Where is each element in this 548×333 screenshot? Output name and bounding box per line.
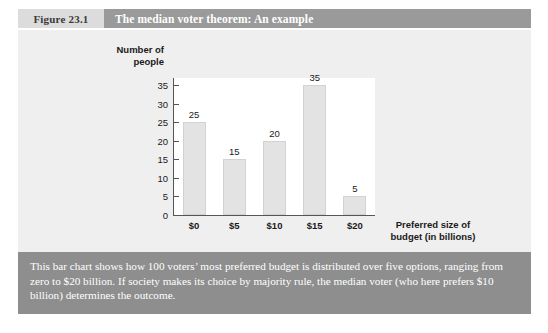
y-axis-title-line-1: Number of [98,44,164,56]
x-axis-tick-label: $5 [229,220,240,231]
plot-wrapper: Number of people 05101520253035 25$015$5… [18,30,531,252]
bar-value-label: 5 [352,183,357,194]
x-axis-tick-label: $15 [307,220,323,231]
bar [303,85,326,215]
y-axis-tick-label: 5 [144,191,168,202]
y-axis-line [173,78,174,215]
bar-value-label: 25 [189,109,200,120]
y-axis-tick-mark [174,85,179,86]
x-axis-tick-label: $10 [267,220,283,231]
figure-container: Figure 23.1 The median voter theorem: An… [0,0,548,333]
bar-value-label: 35 [309,72,320,83]
y-axis-tick-label: 20 [144,135,168,146]
y-axis-tick-label: 25 [144,117,168,128]
y-axis-tick-mark [174,104,179,105]
y-axis-tick-mark [174,178,179,179]
y-axis-tick-label: 15 [144,154,168,165]
figure-caption-band: This bar chart shows how 100 voters’ mos… [18,252,531,314]
y-axis-title-line-2: people [98,56,164,68]
bar-value-label: 20 [269,128,280,139]
bar [223,159,246,215]
figure-header: Figure 23.1 The median voter theorem: An… [18,9,531,28]
x-axis-tick-label: $20 [347,220,363,231]
y-axis-tick-mark [174,122,179,123]
bar [343,196,366,215]
figure-number-label: Figure 23.1 [18,9,104,28]
x-axis-title: Preferred size of budget (in billions) [373,219,493,242]
y-axis-tick-mark [174,141,179,142]
x-axis-line [173,215,375,216]
y-axis-title: Number of people [98,44,164,67]
x-axis-title-line-1: Preferred size of [373,219,493,231]
figure-caption-text: This bar chart shows how 100 voters’ mos… [30,259,519,303]
y-axis-tick-label: 35 [144,80,168,91]
y-axis-tick-label: 0 [144,210,168,221]
figure-title: The median voter theorem: An example [104,9,531,28]
y-axis-tick-mark [174,196,179,197]
x-axis-title-line-2: budget (in billions) [373,231,493,243]
chart-panel: Number of people 05101520253035 25$015$5… [18,30,531,252]
y-axis-tick-mark [174,159,179,160]
bar [263,141,286,215]
y-axis-tick-label: 10 [144,172,168,183]
bar [183,122,206,215]
y-axis-tick-label: 30 [144,98,168,109]
bar-value-label: 15 [229,146,240,157]
x-axis-tick-label: $0 [189,220,200,231]
